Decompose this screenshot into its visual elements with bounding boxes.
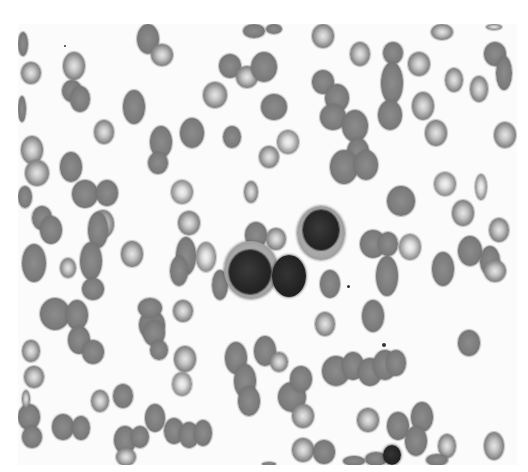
- red-blood-cell: [292, 404, 314, 428]
- red-blood-cell: [196, 242, 216, 272]
- red-blood-cell: [72, 416, 90, 440]
- red-blood-cell: [387, 186, 415, 216]
- red-blood-cell: [475, 174, 487, 200]
- red-blood-cell: [408, 52, 430, 76]
- red-blood-cell: [292, 438, 314, 462]
- red-blood-cell: [350, 42, 370, 66]
- red-blood-cell: [25, 160, 49, 186]
- red-blood-cell: [259, 146, 279, 168]
- red-blood-cell: [203, 82, 227, 108]
- red-blood-cell: [277, 130, 299, 154]
- red-blood-cell: [262, 462, 276, 465]
- red-blood-cell: [22, 426, 42, 448]
- red-blood-cell: [138, 298, 162, 318]
- red-blood-cell: [290, 366, 312, 392]
- red-blood-cell: [266, 24, 282, 34]
- white-blood-cell-nucleus: [303, 210, 339, 250]
- red-blood-cell: [145, 404, 165, 432]
- red-blood-cell: [178, 211, 200, 235]
- red-blood-cell: [383, 42, 403, 64]
- blood-smear-micrograph: [18, 24, 517, 465]
- red-blood-cell: [434, 172, 456, 196]
- red-blood-cell: [60, 258, 76, 278]
- red-blood-cell: [180, 118, 204, 148]
- red-blood-cell: [238, 386, 260, 416]
- white-blood-cell-nucleus: [229, 250, 271, 294]
- red-blood-cell: [489, 218, 509, 242]
- red-blood-cell: [496, 56, 512, 90]
- red-blood-cell: [40, 216, 62, 244]
- red-blood-cell: [96, 180, 118, 206]
- red-blood-cell: [494, 122, 516, 148]
- red-blood-cell: [148, 152, 168, 174]
- red-blood-cell: [223, 126, 241, 148]
- red-blood-cell: [362, 300, 384, 332]
- red-blood-cell: [22, 390, 30, 408]
- red-blood-cell: [131, 426, 149, 448]
- red-blood-cell: [172, 372, 192, 396]
- red-blood-cell: [452, 200, 474, 226]
- red-blood-cell: [432, 252, 454, 286]
- red-blood-cell: [70, 86, 90, 112]
- platelet-dot: [347, 285, 350, 288]
- red-blood-cell: [405, 426, 427, 456]
- red-blood-cell: [91, 390, 109, 412]
- red-blood-cell: [174, 346, 196, 372]
- red-blood-cell: [113, 384, 133, 408]
- red-blood-cell: [484, 432, 504, 460]
- red-blood-cell: [320, 270, 340, 298]
- red-blood-cell: [378, 100, 402, 130]
- red-blood-cell: [18, 96, 26, 122]
- red-blood-cell: [24, 366, 44, 388]
- red-blood-cell: [82, 340, 104, 364]
- red-blood-cell: [150, 340, 168, 360]
- red-blood-cell: [116, 448, 136, 465]
- red-blood-cell: [266, 228, 286, 250]
- red-blood-cell: [399, 234, 421, 260]
- red-blood-cell: [22, 340, 40, 362]
- red-blood-cell: [243, 24, 265, 38]
- red-blood-cell: [425, 120, 447, 146]
- lymphocyte: [272, 255, 306, 297]
- red-blood-cell: [194, 420, 212, 446]
- red-blood-cell: [343, 456, 365, 465]
- red-blood-cell: [357, 408, 379, 432]
- red-blood-cell: [484, 260, 506, 282]
- red-blood-cell: [171, 180, 193, 204]
- red-blood-cell: [412, 92, 434, 120]
- red-blood-cell: [21, 62, 41, 84]
- red-blood-cell: [431, 24, 453, 40]
- red-blood-cell: [458, 236, 482, 266]
- red-blood-cell: [445, 68, 463, 92]
- red-blood-cell: [386, 350, 406, 376]
- red-blood-cell: [18, 186, 32, 208]
- red-blood-cell: [458, 330, 480, 356]
- red-blood-cell: [313, 440, 335, 464]
- red-blood-cell: [60, 152, 82, 182]
- red-blood-cell: [63, 52, 85, 80]
- red-blood-cell: [82, 278, 104, 300]
- red-blood-cell: [244, 181, 258, 203]
- red-blood-cell: [18, 32, 28, 56]
- red-blood-cell: [378, 232, 398, 256]
- red-blood-cell: [94, 120, 114, 144]
- red-blood-cell: [121, 241, 143, 267]
- red-blood-cell: [173, 300, 193, 322]
- red-blood-cell: [22, 244, 46, 282]
- red-blood-cell: [312, 24, 334, 48]
- red-blood-cell: [270, 352, 288, 372]
- red-blood-cell: [315, 312, 335, 336]
- red-blood-cell: [342, 110, 368, 142]
- red-blood-cell: [376, 256, 398, 296]
- red-blood-cell: [151, 44, 173, 66]
- red-blood-cell: [426, 454, 448, 465]
- red-blood-cell: [354, 150, 378, 180]
- platelet-dot: [64, 45, 66, 47]
- red-blood-cell: [261, 94, 287, 120]
- red-blood-cell: [80, 242, 102, 280]
- red-blood-cell: [251, 52, 277, 82]
- red-blood-cell: [170, 256, 188, 286]
- platelet-dot: [382, 343, 386, 347]
- red-blood-cell: [381, 62, 403, 104]
- red-blood-cell: [123, 90, 145, 124]
